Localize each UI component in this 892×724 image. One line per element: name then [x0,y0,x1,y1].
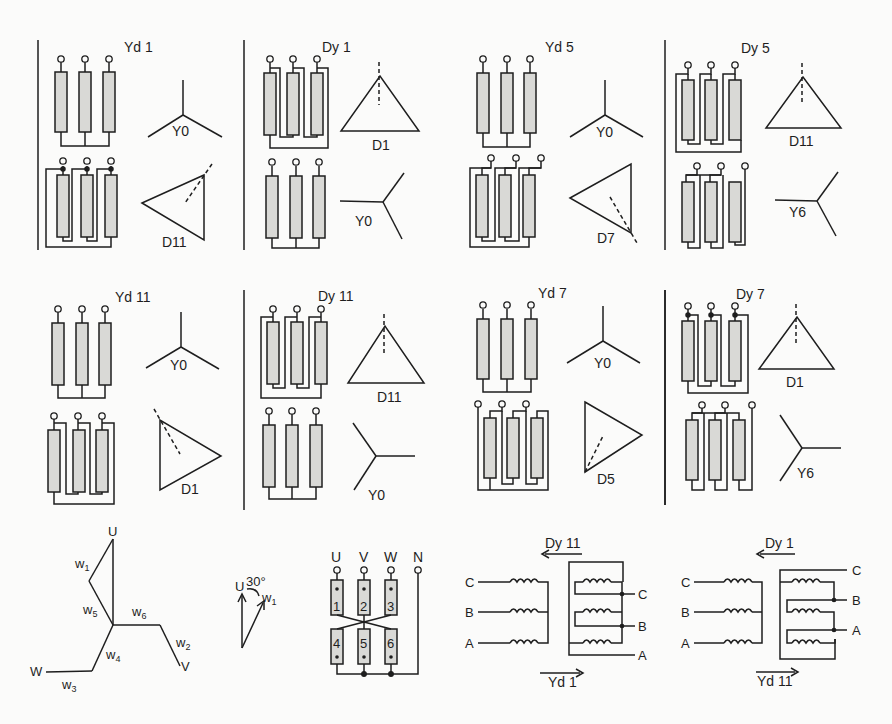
equiv-right-bottom-label: Yd 11 [757,674,793,688]
zigzag-connection-diagram [331,567,421,676]
angle-phasor-w1: w1 [262,591,276,607]
equiv-left-phase-a: A [465,637,474,650]
equiv-right-phase-a: A [681,637,690,650]
panel-title-dy11: Dy 11 [318,289,354,303]
equivalence-diagram-dy1-yd11 [694,550,847,676]
panel-title-yd1: Yd 1 [124,40,153,54]
equiv-left-bottom-label: Yd 1 [548,675,577,689]
coil-label-4: 4 [333,637,340,650]
vector-label-yd1-lower: D11 [162,235,187,249]
panel-title-yd7: Yd 7 [538,286,567,300]
coil-label-1: 1 [333,600,340,613]
equiv-left-out-a: A [638,649,647,662]
equiv-right-phase-c: C [681,576,690,589]
equiv-right-phase-b: B [681,606,690,619]
equiv-right-out-a: A [852,624,861,637]
angle-phasor-u: U [235,580,244,593]
phasor-node-u: U [108,525,117,538]
panel-title-yd11: Yd 11 [115,290,151,304]
panel-title-dy1: Dy 1 [322,40,351,54]
panel-yd11 [48,306,221,504]
panel-yd5 [470,56,643,247]
equiv-left-out-c: C [638,588,647,601]
vector-label-dy7-lower: Y6 [797,466,814,480]
vector-label-dy1-upper: D1 [372,138,390,152]
equiv-left-top-label: Dy 11 [545,536,581,550]
panel-title-dy7: Dy 7 [736,287,765,301]
winding-label-w1: w1 [75,557,89,573]
phasor-node-v: V [181,660,190,673]
vector-label-dy7-upper: D1 [786,375,804,389]
vector-label-dy1-lower: Y0 [355,214,372,228]
coil-label-5: 5 [360,637,367,650]
equiv-left-out-b: B [638,620,647,633]
coil-label-2: 2 [360,600,367,613]
winding-label-w3: w3 [62,678,76,694]
equiv-left-phase-c: C [465,576,474,589]
panel-yd1 [46,56,222,247]
winding-label-w5: w5 [83,603,97,619]
panel-title-dy5: Dy 5 [741,41,770,55]
vector-label-dy11-upper: D11 [377,390,402,404]
vector-label-dy5-lower: Y6 [789,205,806,219]
vector-label-yd1-upper: Y0 [172,124,189,138]
equiv-right-out-b: B [852,594,861,607]
coil-label-6: 6 [387,637,394,650]
winding-label-w4: w4 [106,648,120,664]
vector-label-yd5-lower: D7 [597,231,615,245]
panel-dy1 [264,56,419,248]
equiv-right-top-label: Dy 1 [765,536,794,550]
panel-yd7 [475,302,642,490]
panel-title-yd5: Yd 5 [545,40,574,54]
vector-label-dy11-lower: Y0 [368,488,385,502]
vector-label-yd7-upper: Y0 [594,356,611,370]
winding-label-w2: w2 [176,636,190,652]
equiv-left-phase-b: B [465,606,474,619]
equivalence-diagram-dy11-yd1 [478,550,635,677]
phasor-node-w: W [30,665,42,678]
panel-dividers [38,40,665,510]
terminal-label-u: U [331,550,341,564]
terminal-label-v: V [359,550,368,564]
vector-label-yd7-lower: D5 [597,472,615,486]
vector-label-yd11-lower: D1 [181,482,199,496]
vector-label-yd5-upper: Y0 [596,125,613,139]
angle-phasor-diagram [238,589,264,648]
panel-dy5 [676,62,841,248]
equiv-right-out-c: C [852,564,861,577]
panel-dy7 [682,303,841,490]
winding-label-w6: w6 [132,605,146,621]
vector-label-dy5-upper: D11 [789,134,814,148]
terminal-label-n: N [413,550,423,564]
angle-phasor-angle: 30° [246,575,266,588]
terminal-label-w: W [384,550,397,564]
coil-label-3: 3 [387,600,394,613]
vector-label-yd11-upper: Y0 [170,358,187,372]
